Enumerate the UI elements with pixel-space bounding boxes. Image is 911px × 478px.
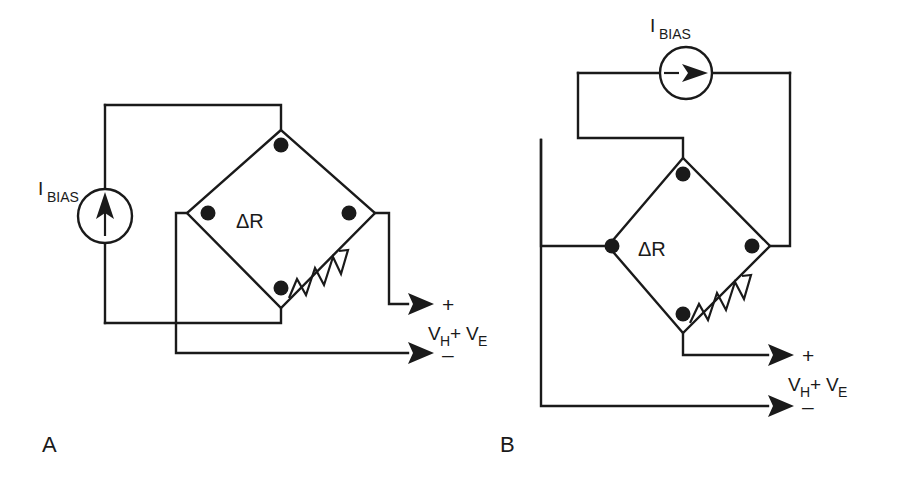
voltage-v-e-sub: E	[478, 333, 487, 349]
output-minus-arrowhead	[768, 395, 794, 417]
bridge-node-right-dot	[342, 206, 357, 221]
bias-label-main: I	[38, 178, 43, 199]
output-minus-wire	[176, 213, 408, 353]
output-minus-upper-wire	[541, 140, 608, 246]
panel-b-source-group: I BIAS	[578, 15, 790, 246]
panel-b-outputs: + – V H + V E	[541, 140, 847, 418]
panel-a: I BIAS ΔR	[38, 105, 487, 457]
output-plus-arrowhead	[768, 344, 794, 366]
output-plus-label: +	[802, 344, 814, 367]
output-plus-wire	[683, 333, 768, 355]
panel-b: I BIAS ΔR	[500, 15, 847, 457]
bridge-node-bottom-dot	[274, 281, 289, 296]
circuit-diagram-svg: I BIAS ΔR	[0, 0, 911, 478]
output-minus-arrowhead	[408, 342, 434, 364]
panel-b-letter: B	[500, 432, 515, 457]
bottom-rail-wire	[105, 308, 281, 323]
output-voltage-label: V H + V E	[428, 323, 487, 349]
bridge-node-left-dot	[201, 206, 216, 221]
bridge-node-top-dot	[676, 167, 691, 182]
voltage-v-e-sub: E	[838, 384, 847, 400]
bias-label-subscript: BIAS	[659, 26, 691, 42]
output-plus-wire	[375, 213, 408, 304]
panel-b-bridge: ΔR	[605, 158, 771, 333]
output-plus-arrowhead	[408, 293, 434, 315]
bias-label-subscript: BIAS	[47, 189, 79, 205]
source-right-branch-wire	[770, 73, 790, 246]
delta-r-label: ΔR	[638, 238, 666, 260]
voltage-v-h-sub: H	[440, 333, 450, 349]
output-minus-wire	[541, 140, 768, 406]
output-voltage-label: V H + V E	[788, 374, 847, 400]
bridge-node-right-dot	[745, 239, 760, 254]
voltage-v-h-sub: H	[800, 384, 810, 400]
bridge-node-top-dot	[274, 138, 289, 153]
bias-label-main: I	[650, 15, 655, 36]
voltage-plus-sign: +	[450, 323, 461, 344]
top-rail-wire	[105, 105, 281, 130]
voltage-plus-sign: +	[810, 374, 821, 395]
panel-a-bridge: ΔR	[187, 130, 375, 308]
circuit-figure: I BIAS ΔR	[0, 0, 911, 478]
panel-a-letter: A	[42, 432, 57, 457]
bridge-node-bottom-dot	[676, 307, 691, 322]
panel-a-outputs: + – V H + V E	[176, 213, 487, 366]
delta-r-label: ΔR	[236, 210, 264, 232]
output-plus-label: +	[442, 293, 454, 316]
